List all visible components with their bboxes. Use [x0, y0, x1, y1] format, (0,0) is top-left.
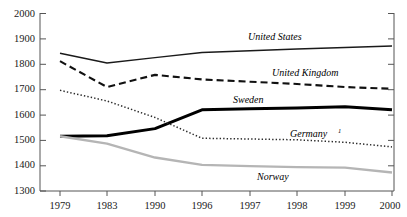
x-tick-label: 1999	[335, 200, 356, 211]
x-axis-ticks	[60, 191, 392, 196]
y-axis-tick-labels: 2000 1900 1800 1700 1600 1500 1400 1300	[14, 8, 35, 196]
x-axis-tick-labels: 1979 1983 1990 1996 1997 1998 1999 2000	[50, 200, 401, 211]
series-label-germany: Germany	[290, 128, 328, 139]
x-tick-label: 1997	[240, 200, 261, 211]
series-label-united-states: United States	[248, 31, 302, 42]
y-tick-label: 1300	[14, 185, 35, 196]
line-chart-plot: 2000 1900 1800 1700 1600 1500 1400 1300	[0, 0, 407, 217]
y-tick-label: 1700	[14, 83, 35, 94]
x-tick-label: 1990	[145, 200, 166, 211]
x-tick-label: 1996	[192, 200, 213, 211]
series-line-united-states	[60, 46, 392, 63]
chart-container: 2000 1900 1800 1700 1600 1500 1400 1300	[0, 0, 407, 217]
x-tick-label: 1983	[97, 200, 118, 211]
y-tick-label: 1600	[14, 109, 35, 120]
series-line-united-kingdom	[60, 61, 392, 89]
x-tick-label: 2000	[380, 200, 401, 211]
series-label-sweden: Sweden	[233, 94, 264, 105]
y-tick-label: 1900	[14, 33, 35, 44]
x-tick-label: 1998	[287, 200, 308, 211]
series-line-sweden	[60, 107, 392, 136]
x-tick-label: 1979	[50, 200, 71, 211]
series-label-germany-superscript: 1	[338, 127, 341, 134]
y-tick-label: 1800	[14, 58, 35, 69]
series-layer	[60, 46, 392, 173]
y-tick-label: 1400	[14, 159, 35, 170]
y-tick-label: 1500	[14, 134, 35, 145]
series-line-germany	[60, 90, 392, 147]
y-axis-ticks-right	[388, 14, 394, 166]
y-axis-ticks	[40, 14, 46, 192]
series-label-united-kingdom: United Kingdom	[272, 67, 338, 78]
y-tick-label: 2000	[14, 8, 35, 19]
series-label-norway: Norway	[256, 171, 289, 182]
